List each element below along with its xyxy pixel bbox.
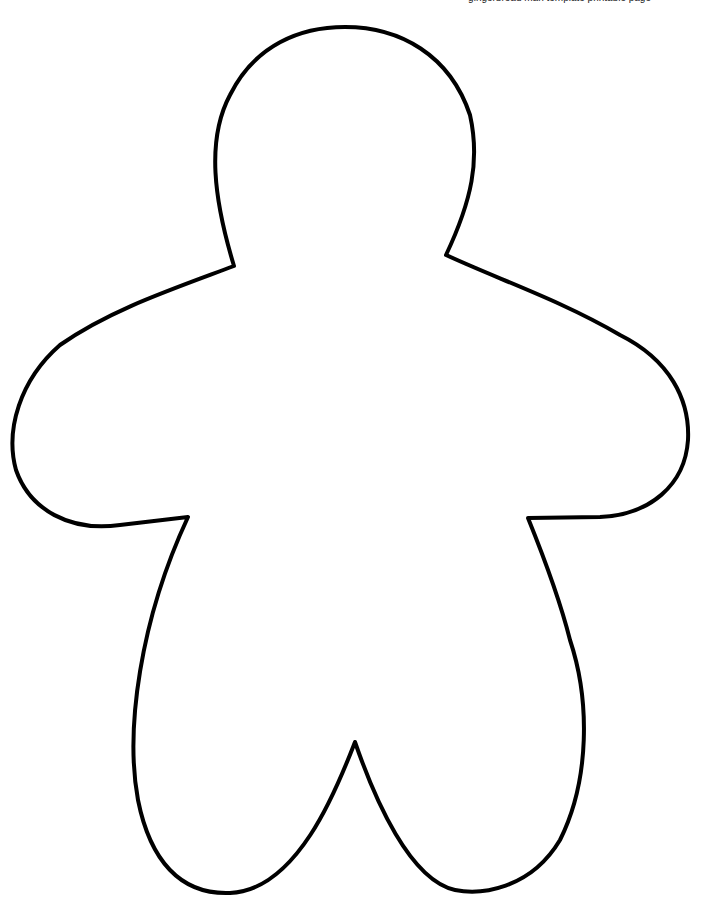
gingerbread-man-shape [13,27,689,893]
gingerbread-man-outline [0,0,711,917]
